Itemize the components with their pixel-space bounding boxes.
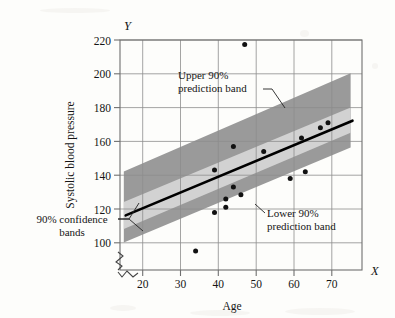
y-tick-label: 140 (94, 170, 112, 182)
figure-root: 220 200 180 160 140 120 100 20 30 40 50 … (0, 0, 395, 318)
lower-band-label-line2: prediction band (267, 220, 336, 232)
x-axis-title: Age (222, 300, 241, 313)
data-point (242, 42, 247, 47)
data-point (299, 136, 304, 141)
y-tick-label: 180 (94, 102, 112, 114)
y-tick-label: 100 (94, 237, 112, 249)
scatter-chart: 220 200 180 160 140 120 100 20 30 40 50 … (0, 0, 395, 318)
lower-band-label-line1: Lower 90% (267, 207, 319, 219)
upper-band-label-line1: Upper 90% (178, 69, 228, 81)
x-tick-label: 20 (137, 278, 149, 290)
y-tick-label: 220 (94, 35, 112, 47)
data-point (231, 144, 236, 149)
data-point (238, 192, 243, 197)
upper-prediction-band-annotation: Upper 90% prediction band (178, 69, 285, 108)
data-point (231, 185, 236, 190)
x-tick-label: 60 (288, 278, 300, 290)
data-point (303, 169, 308, 174)
x-tick-label: 40 (213, 278, 225, 290)
x-axis-break-icon (118, 271, 138, 277)
y-tick-label: 200 (94, 68, 112, 80)
data-point (212, 210, 217, 215)
data-point (223, 205, 228, 210)
data-point (212, 168, 217, 173)
x-tick-label: 70 (326, 278, 338, 290)
data-point (326, 120, 331, 125)
data-point (288, 176, 293, 181)
x-axis: 20 30 40 50 60 70 (137, 270, 338, 290)
upper-band-label-line2: prediction band (178, 82, 247, 94)
data-point (318, 125, 323, 130)
x-axis-symbol: X (370, 264, 380, 278)
confidence-label-line1: 90% confidence (36, 213, 107, 225)
confidence-label-line2: bands (59, 226, 85, 238)
data-point (261, 149, 266, 154)
y-axis-title: Systolic blood pressure (64, 101, 77, 208)
data-point (223, 196, 228, 201)
x-tick-label: 50 (250, 278, 262, 290)
data-point (193, 249, 198, 254)
y-tick-label: 160 (94, 136, 112, 148)
lower-prediction-band-annotation: Lower 90% prediction band (255, 204, 336, 232)
y-axis-symbol: Y (124, 19, 133, 33)
x-tick-label: 30 (175, 278, 187, 290)
